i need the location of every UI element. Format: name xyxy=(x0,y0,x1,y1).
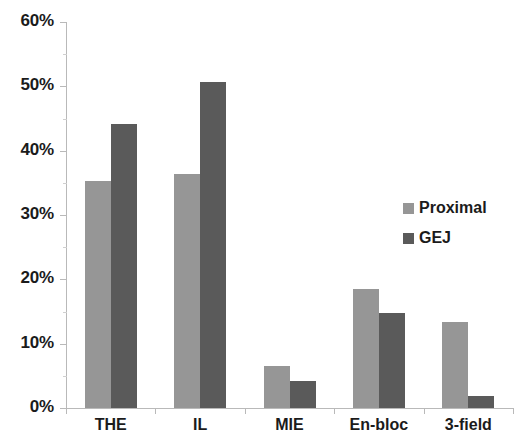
bar-mie-proximal xyxy=(264,366,290,408)
bar-the-proximal xyxy=(85,181,111,408)
x-tick xyxy=(66,408,67,414)
bar-mie-gej xyxy=(290,381,316,408)
legend-swatch-gej-icon xyxy=(403,233,414,244)
bar-3-field-gej xyxy=(468,396,494,408)
legend-item-proximal: Proximal xyxy=(403,193,487,223)
bar-the-gej xyxy=(111,124,137,408)
bar-3-field-proximal xyxy=(442,322,468,408)
x-tick-label-mie: MIE xyxy=(240,416,340,434)
legend-swatch-proximal-icon xyxy=(403,203,414,214)
x-axis-line xyxy=(66,408,513,409)
x-tick xyxy=(513,408,514,414)
x-tick xyxy=(334,408,335,414)
x-tick-label-3-field: 3-field xyxy=(418,416,518,434)
x-tick xyxy=(424,408,425,414)
bar-il-gej xyxy=(200,82,226,408)
x-tick-label-en-bloc: En-bloc xyxy=(329,416,429,434)
chart-legend: Proximal GEJ xyxy=(403,193,487,253)
x-tick xyxy=(245,408,246,414)
bar-chart: 0%10%20%30%40%50%60% THEILMIEEn-bloc3-fi… xyxy=(0,0,524,446)
x-tick xyxy=(155,408,156,414)
bar-en-bloc-gej xyxy=(379,313,405,408)
legend-label-proximal: Proximal xyxy=(419,199,487,217)
legend-item-gej: GEJ xyxy=(403,223,487,253)
x-tick-label-the: THE xyxy=(61,416,161,434)
legend-label-gej: GEJ xyxy=(419,229,451,247)
bar-il-proximal xyxy=(174,174,200,408)
x-tick-label-il: IL xyxy=(150,416,250,434)
bar-en-bloc-proximal xyxy=(353,289,379,408)
